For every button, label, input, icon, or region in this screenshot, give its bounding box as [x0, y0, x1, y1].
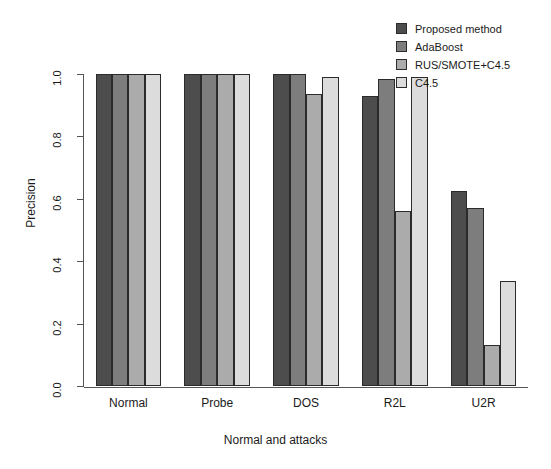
- bar: [184, 74, 200, 386]
- bar: [500, 281, 516, 386]
- bar: [96, 74, 112, 386]
- x-axis-label-r2l: R2L: [350, 396, 439, 410]
- bar: [411, 77, 427, 386]
- plot-area: [84, 74, 528, 386]
- x-axis-label-u2r: U2R: [439, 396, 528, 410]
- legend-swatch-icon: [396, 59, 407, 70]
- x-axis-label-dos: DOS: [262, 396, 351, 410]
- x-axis-label-normal: Normal: [84, 396, 173, 410]
- bar: [290, 74, 306, 386]
- bar: [145, 74, 161, 386]
- y-axis-tick-label: 0.0: [44, 380, 70, 392]
- bar: [234, 74, 250, 386]
- y-axis-tick: [77, 199, 83, 200]
- bar: [201, 74, 217, 386]
- bar: [467, 208, 483, 386]
- legend-item: RUS/SMOTE+C4.5: [396, 56, 546, 73]
- bar: [395, 211, 411, 386]
- bar: [484, 345, 500, 386]
- bar-group-u2r: [451, 74, 517, 386]
- y-axis-tick: [77, 74, 83, 75]
- chart-legend: Proposed methodAdaBoostRUS/SMOTE+C4.5C4.…: [396, 20, 546, 92]
- legend-label: C4.5: [415, 77, 438, 89]
- bar-group-normal: [96, 74, 162, 386]
- legend-item: AdaBoost: [396, 38, 546, 55]
- precision-bar-chart: 0.00.20.40.60.81.0 Precision NormalProbe…: [0, 0, 551, 469]
- x-axis-title: Normal and attacks: [0, 433, 551, 447]
- legend-label: AdaBoost: [415, 41, 463, 53]
- bar: [322, 77, 338, 386]
- y-axis-tick-label: 0.4: [44, 255, 70, 267]
- y-axis-tick: [77, 136, 83, 137]
- legend-swatch-icon: [396, 77, 407, 88]
- legend-swatch-icon: [396, 23, 407, 34]
- y-axis-tick-label: 1.0: [44, 68, 70, 80]
- legend-swatch-icon: [396, 41, 407, 52]
- y-axis-tick: [77, 386, 83, 387]
- bar: [362, 96, 378, 386]
- legend-item: Proposed method: [396, 20, 546, 37]
- bar: [217, 74, 233, 386]
- bar: [128, 74, 144, 386]
- y-axis-tick: [77, 261, 83, 262]
- y-axis-tick-label: 0.8: [44, 130, 70, 142]
- legend-label: Proposed method: [415, 23, 502, 35]
- x-axis-line: [84, 387, 528, 388]
- bar: [306, 94, 322, 386]
- bar-group-probe: [184, 74, 250, 386]
- bar-group-dos: [273, 74, 339, 386]
- bar: [112, 74, 128, 386]
- bar: [273, 74, 289, 386]
- bar: [378, 79, 394, 386]
- y-axis-tick: [77, 324, 83, 325]
- x-axis-label-probe: Probe: [173, 396, 262, 410]
- legend-item: C4.5: [396, 74, 546, 91]
- y-axis-title: Precision: [24, 158, 38, 248]
- legend-label: RUS/SMOTE+C4.5: [415, 59, 510, 71]
- y-axis-tick-label: 0.6: [44, 193, 70, 205]
- bar: [451, 191, 467, 386]
- y-axis-tick-label: 0.2: [44, 318, 70, 330]
- bar-group-r2l: [362, 74, 428, 386]
